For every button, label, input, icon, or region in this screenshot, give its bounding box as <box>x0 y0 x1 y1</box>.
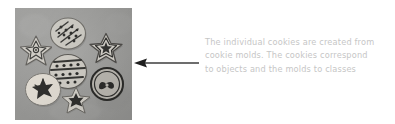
cookie-star-floral-bottom <box>60 86 92 116</box>
cookie-round-striped-top <box>48 16 88 52</box>
pointer-arrow <box>134 55 200 69</box>
caption-text: The individual cookies are created from … <box>205 36 395 76</box>
cookie-star-burst-right <box>89 32 123 66</box>
arrow-left-icon <box>134 56 200 70</box>
cookie-round-bow-dark <box>89 66 125 102</box>
cookies-and-molds-analogy-figure: The individual cookies are created from … <box>0 0 395 124</box>
cookie-round-floral-pale <box>23 71 63 109</box>
caption-line-3: to objects and the molds to classes <box>205 63 395 76</box>
caption-line-1: The individual cookies are created from <box>205 36 395 49</box>
caption-line-2: cookie molds. The cookies correspond <box>205 49 395 62</box>
photo-of-cookies <box>15 8 132 120</box>
